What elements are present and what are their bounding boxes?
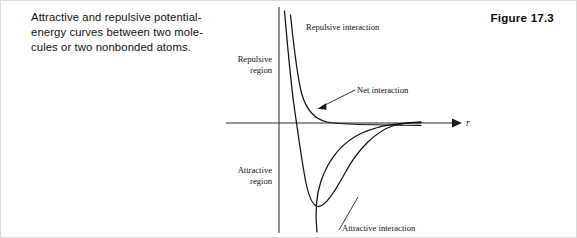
caption-line-1: Attractive and repulsive potential- [31, 10, 217, 25]
x-axis-arrowhead [452, 119, 462, 128]
attractive-interaction-curve [316, 123, 421, 232]
repulsive-interaction-label: Repulsive interaction [306, 22, 380, 32]
caption-line-3: cules or two nonbonded atoms. [31, 40, 217, 55]
attractive-region-label-line-1: Attractive [238, 165, 273, 175]
net-interaction-leader-arrowhead [318, 103, 327, 110]
figure-caption: Attractive and repulsive potential- ener… [31, 10, 217, 56]
figure-panel: Attractive and repulsive potential- ener… [0, 0, 577, 238]
net-interaction-label: Net interaction [357, 85, 409, 95]
repulsive-region-label-line-1: Repulsive [238, 54, 273, 64]
potential-energy-plot: Repulsive interaction Net interaction At… [216, 1, 577, 238]
repulsive-region-label-line-2: region [250, 65, 273, 75]
x-axis-label: r [466, 118, 470, 128]
caption-line-2: energy curves between two mole- [31, 25, 217, 40]
attractive-interaction-label: Attractive interaction [342, 223, 416, 233]
net-interaction-curve [285, 11, 422, 207]
attractive-region-label-line-2: region [250, 176, 273, 186]
